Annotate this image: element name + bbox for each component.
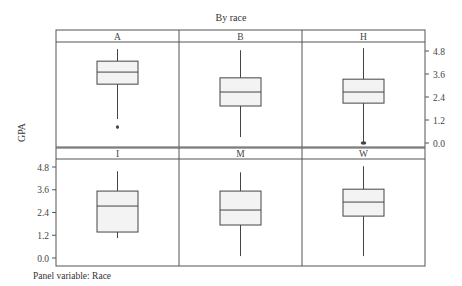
y-tick-label: 1.2	[37, 231, 49, 241]
panel-A: A	[97, 32, 138, 129]
y-tick-label: 2.4	[433, 93, 445, 103]
y-tick-label: 3.6	[37, 185, 49, 195]
iqr-box	[220, 191, 261, 225]
panel-strip-label: B	[237, 32, 243, 42]
panel-strip-label: M	[236, 149, 245, 159]
panel-strip-label: W	[359, 149, 368, 159]
panel-W: W	[343, 149, 384, 257]
boxplot-grid: 0.01.22.43.64.8ABH0.01.22.43.64.8IMW	[0, 0, 462, 286]
y-tick-label: 4.8	[433, 47, 445, 57]
iqr-box	[97, 61, 138, 84]
y-tick-label: 1.2	[433, 116, 445, 126]
panel-H: H	[343, 32, 384, 145]
outlier-point	[361, 141, 367, 145]
y-tick-label: 4.8	[37, 163, 49, 173]
panel-strip-label: I	[116, 149, 119, 159]
iqr-box	[343, 189, 384, 216]
y-tick-label: 3.6	[433, 70, 445, 80]
y-tick-label: 2.4	[37, 208, 49, 218]
iqr-box	[97, 191, 138, 232]
panel-I: I	[97, 149, 138, 239]
outlier-point	[116, 125, 119, 129]
iqr-box	[343, 79, 384, 103]
y-tick-label: 0.0	[433, 139, 445, 149]
y-tick-label: 0.0	[37, 254, 49, 264]
panel-B: B	[220, 32, 261, 138]
left-y-axis: 0.01.22.43.64.8	[37, 163, 56, 264]
panel-strip-label: A	[114, 32, 121, 42]
panel-M: M	[220, 149, 261, 257]
panel-strip-label: H	[360, 32, 367, 42]
right-y-axis: 0.01.22.43.64.8	[425, 47, 445, 149]
